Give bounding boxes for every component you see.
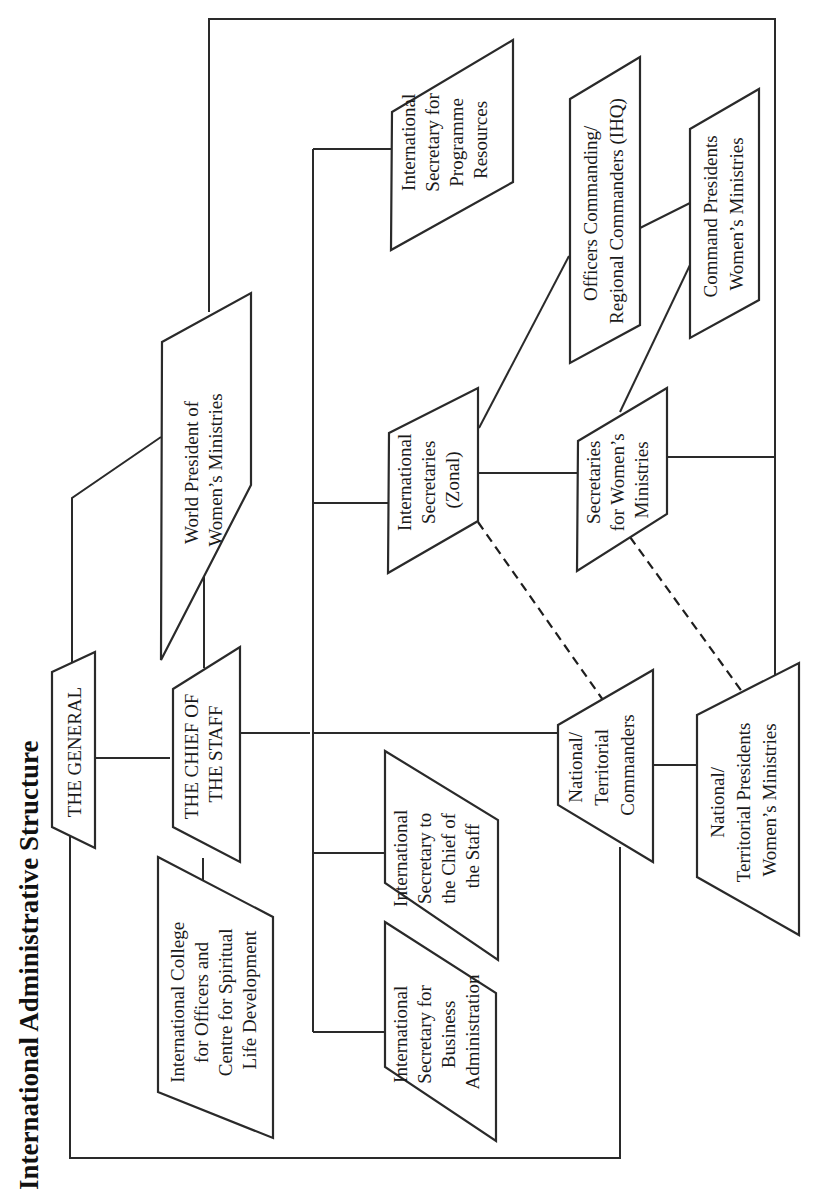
svg-text:National/ Territorial: National/ Territorial Commanders: [565, 714, 638, 815]
node-label-line: Officers Commanding/: [580, 125, 601, 301]
node-label-line: Command Presidents: [700, 135, 721, 297]
svg-text:THE GENERAL: THE GENERAL: [64, 687, 85, 817]
node-chief-of-staff[interactable]: THE CHIEF OF THE STAFF: [173, 647, 240, 862]
node-label-line: (Zonal): [442, 452, 464, 509]
node-label-line: Territorial Presidents: [733, 723, 754, 883]
node-label-line: THE CHIEF OF: [181, 694, 202, 820]
svg-text:Secretaries for Women’s: Secretaries for Women’s Ministries: [583, 429, 652, 532]
node-label-line: Centre for Spiritual: [215, 929, 236, 1077]
node-intl-sec-zonal[interactable]: International Secretaries (Zonal): [388, 388, 478, 573]
node-the-general[interactable]: THE GENERAL: [52, 652, 95, 848]
node-label-line: International: [398, 94, 419, 191]
node-label-line: International: [390, 810, 411, 907]
node-label-line: World President of: [181, 400, 202, 544]
node-national-commanders[interactable]: National/ Territorial Commanders: [558, 670, 653, 862]
node-intl-college[interactable]: International College for Officers and C…: [158, 857, 273, 1138]
node-national-presidents-wm[interactable]: National/ Territorial Presidents Women’s…: [697, 663, 799, 935]
connector-general-to-world-president: [72, 437, 161, 667]
node-label-line: Ministries: [631, 441, 652, 518]
connector-officers-to-command-presidents: [640, 203, 690, 228]
node-label-line: THE GENERAL: [64, 687, 85, 817]
node-label-line: Women’s Ministries: [726, 137, 747, 290]
node-label-line: Administration: [462, 974, 483, 1090]
node-label-line: Programme: [446, 98, 467, 187]
node-label-line: Women’s Ministries: [759, 723, 780, 876]
node-label-line: for Women’s: [607, 433, 628, 531]
node-label-line: Territorial: [591, 729, 612, 806]
node-label-line: Secretaries: [418, 441, 439, 524]
node-label-line: International: [394, 434, 415, 531]
node-label-line: National/: [565, 731, 586, 802]
org-chart: THE GENERAL THE CHIEF OF THE STAFF World…: [0, 0, 820, 1191]
connector-general-to-national-commanders: [70, 836, 620, 1158]
node-label-line: International: [390, 986, 411, 1083]
node-label-line: Commanders: [617, 714, 638, 815]
node-label-line: Resources: [470, 101, 491, 179]
node-label-line: THE STAFF: [205, 705, 226, 802]
dashed-secretaries-wm-to-national-presidents: [630, 537, 743, 693]
node-label-line: Women’s Ministries: [205, 393, 226, 546]
node-label-line: Secretary to: [414, 813, 435, 904]
node-label-line: International College: [167, 922, 188, 1083]
node-command-presidents-wm[interactable]: Command Presidents Women’s Ministries: [690, 89, 759, 338]
node-label-line: Secretaries: [583, 441, 604, 524]
node-world-president-wm[interactable]: World President of Women’s Ministries: [161, 293, 251, 660]
node-label-line: the Chief of: [438, 812, 459, 903]
node-label-line: National/: [707, 766, 728, 837]
node-label-line: Secretary for: [414, 984, 435, 1083]
node-secretaries-wm[interactable]: Secretaries for Women’s Ministries: [577, 388, 667, 571]
node-officers-commanding[interactable]: Officers Commanding/ Regional Commanders…: [570, 57, 640, 363]
node-label-line: Regional Commanders (IHQ): [606, 98, 628, 324]
node-label-line: the Staff: [462, 823, 483, 888]
node-intl-sec-programme[interactable]: International Secretary for Programme Re…: [391, 40, 513, 250]
connector-zonal-to-officers-commanding: [479, 256, 569, 428]
node-intl-sec-business[interactable]: International Secretary for Business Adm…: [385, 922, 496, 1141]
node-label-line: Life Development: [239, 930, 260, 1069]
node-label-line: for Officers and: [191, 941, 212, 1062]
chart-title: International Administrative Structure: [14, 741, 44, 1190]
node-label-line: Secretary for: [422, 92, 443, 191]
node-intl-sec-chief[interactable]: International Secretary to the Chief of …: [385, 751, 498, 960]
node-label-line: Business: [438, 1001, 459, 1069]
